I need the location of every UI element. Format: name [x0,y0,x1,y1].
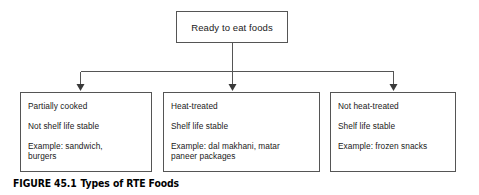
node-partially-cooked: Partially cooked Not shelf life stable E… [20,92,152,172]
arrowhead-1 [229,84,237,91]
node-example: Example: frozen snacks [338,141,455,151]
figure-caption: FIGURE 45.1Types of RTE Foods [13,177,179,190]
node-heading: Heat-treated [171,101,319,111]
arrowhead-0 [77,84,85,91]
node-example: Example: sandwich, burgers [28,141,151,161]
arrowheads [77,84,398,91]
figure-container: Ready to eat foods Partially cooked Not … [0,0,479,195]
node-not-heat-treated: Not heat-treated Shelf life stable Examp… [330,92,456,172]
node-example: Example: dal makhani, matar paneer packa… [171,141,319,161]
figure-caption-text: Types of RTE Foods [80,178,179,189]
node-heat-treated: Heat-treated Shelf life stable Example: … [163,92,320,172]
node-shelf-life: Not shelf life stable [28,121,151,131]
arrowhead-2 [390,84,398,91]
node-ready-to-eat-foods: Ready to eat foods [176,11,288,43]
node-heading: Not heat-treated [338,101,455,111]
node-heading: Partially cooked [28,101,151,111]
figure-caption-label: FIGURE 45.1 [13,178,77,189]
root-node-label: Ready to eat foods [191,22,273,33]
node-shelf-life: Shelf life stable [338,121,455,131]
node-shelf-life: Shelf life stable [171,121,319,131]
